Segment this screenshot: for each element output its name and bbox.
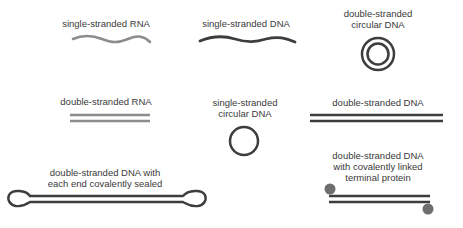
ss-rna-strand <box>73 36 150 42</box>
ss-dna-strand <box>200 37 295 42</box>
diagram-graphics <box>0 0 463 228</box>
ss-circ-dna <box>230 127 258 155</box>
nucleic-acid-forms-diagram: single-stranded RNA single-stranded DNA … <box>0 0 463 228</box>
ds-dna-sealed-strands <box>8 191 205 206</box>
terminal-protein-left <box>325 184 336 195</box>
ds-circ-dna-inner <box>368 44 389 65</box>
terminal-protein-right <box>423 204 434 215</box>
